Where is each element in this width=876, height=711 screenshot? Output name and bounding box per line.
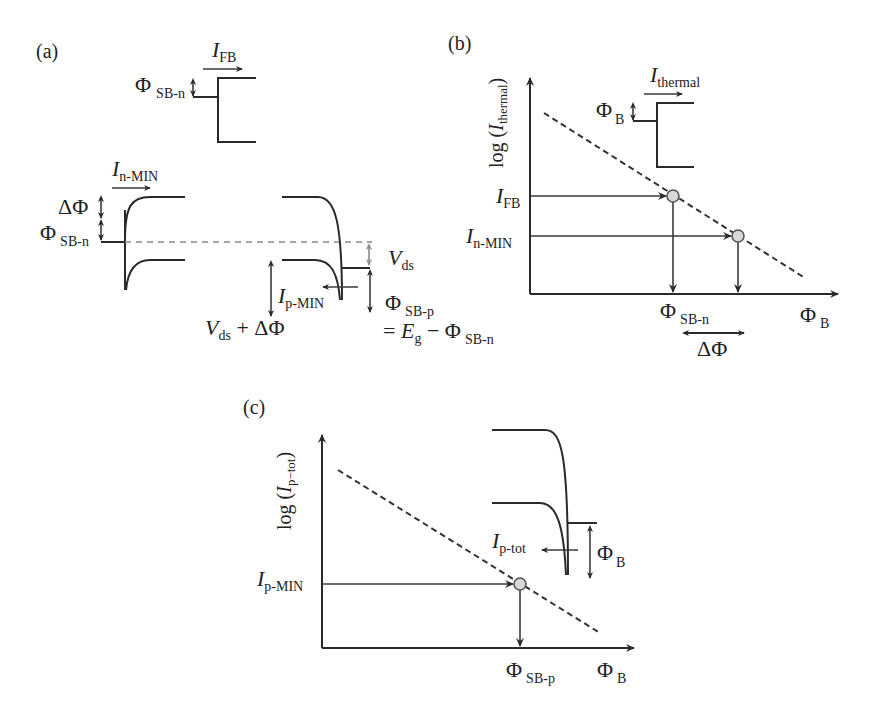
iptot-label: Ip-tot [491, 528, 526, 556]
ifb-axis-label: IFB [495, 183, 520, 211]
phi-sbn-label: ΦSB-n [135, 72, 185, 101]
panel-c: (c) log (Ip−tot) Ip-tot ΦB Ip-MIN ΦSB-p … [243, 396, 634, 686]
delta-phi-label: ΔΦ [58, 194, 88, 219]
inset-phi-b-label: ΦB [597, 540, 625, 570]
inset-phi-b-label: ΦB [596, 97, 624, 127]
ifb-intersection-point [667, 190, 679, 202]
left-conduction-band [125, 197, 185, 240]
right-conduction-band [282, 197, 342, 300]
panel-b-label: (b) [448, 32, 471, 55]
p-current-trend-line [338, 470, 600, 633]
panel-a-label: (a) [36, 40, 58, 63]
right-valence-band [282, 260, 340, 300]
y-axis-label: log (Ip−tot) [273, 452, 298, 530]
vds-label: Vds [388, 245, 414, 273]
left-valence-band [126, 260, 185, 290]
x-axis-label: ΦB [800, 302, 829, 331]
inset-valence-band [492, 503, 566, 575]
delta-phi-b-label: ΔΦ [697, 336, 727, 361]
flatband-inset: IFB ΦSB-n [135, 37, 256, 142]
vds-plus-delta-label: Vds + ΔΦ [205, 315, 285, 343]
band-edge-lower [218, 97, 256, 142]
panel-a: (a) IFB ΦSB-n In-MIN ΔΦ ΦSB-n [36, 37, 494, 347]
ithermal-label: Ithermal [649, 62, 700, 90]
band-diagram: In-MIN ΔΦ ΦSB-n Vds Ip-MIN Vds + ΔΦ ΦS [40, 156, 494, 347]
phi-sbp-axis-label: ΦSB-p [506, 657, 555, 686]
phi-sbp-label: ΦSB-p [385, 290, 434, 319]
inmin-axis-label: In-MIN [465, 223, 512, 251]
inmin-label: In-MIN [111, 156, 158, 184]
phi-sbn-axis-label: ΦSB-n [660, 298, 709, 327]
ipmin-label: Ip-MIN [277, 283, 324, 311]
band-edge-upper [193, 78, 256, 97]
panel-c-label: (c) [243, 396, 265, 419]
panel-b: (b) log (Ithermal) Ithermal ΦB IFB ΦSB-n… [448, 32, 838, 361]
phi-sbn-band-label: ΦSB-n [40, 220, 89, 249]
y-axis-label: log (Ithermal) [485, 78, 510, 168]
inset-upper-edge [633, 103, 694, 121]
figure-canvas: (a) IFB ΦSB-n In-MIN ΔΦ ΦSB-n [0, 0, 876, 711]
x-axis-label: ΦB [597, 657, 626, 686]
ipmin-axis-label: Ip-MIN [256, 566, 303, 594]
inset-lower-edge [657, 121, 694, 167]
ifb-label: IFB [211, 37, 236, 65]
phi-sbp-equation: = Eg − ΦSB-n [383, 318, 494, 347]
ipmin-intersection-point [514, 578, 526, 590]
inmin-intersection-point [732, 230, 744, 242]
